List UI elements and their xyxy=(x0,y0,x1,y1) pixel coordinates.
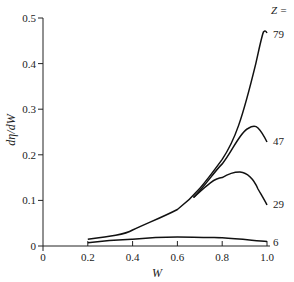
y-tick-label: 0.3 xyxy=(22,103,36,115)
y-tick-label: 0.4 xyxy=(22,58,36,70)
x-tick-label: 0.6 xyxy=(171,251,185,263)
y-tick-label: 0.5 xyxy=(22,12,36,24)
y-tick-labels: 0 0.1 0.2 0.3 0.4 0.5 xyxy=(22,12,36,252)
y-tick-label: 0 xyxy=(31,240,37,252)
y-axis-label: dη/dW xyxy=(4,113,18,145)
x-tick-label: 0.2 xyxy=(81,251,95,263)
legend-title: Z = xyxy=(271,4,287,16)
x-tick-label: 0 xyxy=(40,251,46,263)
series-label-79: 79 xyxy=(273,28,285,40)
x-tick-label: 0.4 xyxy=(126,251,140,263)
series-z-29 xyxy=(194,172,268,205)
x-tick-label: 0.8 xyxy=(215,251,229,263)
y-tick-label: 0.1 xyxy=(22,194,36,206)
series-label-29: 29 xyxy=(273,198,285,210)
x-tick-label: 1.0 xyxy=(260,251,274,263)
x-tick-labels: 0 0.2 0.4 0.6 0.8 1.0 xyxy=(40,251,274,263)
series-label-47: 47 xyxy=(273,135,285,147)
x-axis-label: W xyxy=(152,266,163,280)
series-label-6: 6 xyxy=(273,236,279,248)
y-ticks xyxy=(38,18,43,246)
y-tick-label: 0.2 xyxy=(22,149,36,161)
series-z-79 xyxy=(88,31,267,239)
chart: 0 0.1 0.2 0.3 0.4 0.5 0 0.2 0.4 0.6 0.8 … xyxy=(0,0,294,282)
